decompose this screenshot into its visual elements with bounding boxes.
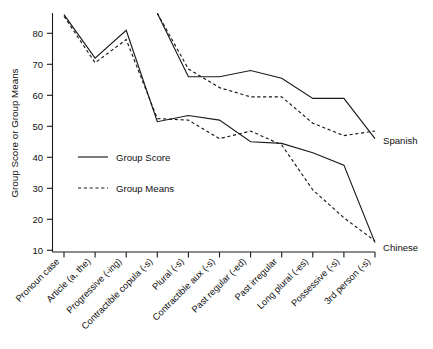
y-axis-title: Group Score or Group Means: [9, 68, 20, 197]
x-tick-label-progressive: Progressive (-ing): [65, 256, 124, 315]
x-tick-label-past-regular: Past regular (-ed): [190, 256, 248, 314]
y-tick-label: 80: [32, 28, 43, 39]
y-tick-labels: 80 70 60 50 40 30 20 10: [32, 28, 43, 256]
y-tick-label: 30: [32, 183, 43, 194]
y-tick-label: 20: [32, 214, 43, 225]
x-tick-labels: Pronoun case Article (a, the) Progressiv…: [14, 256, 373, 331]
y-tick-label: 50: [32, 121, 43, 132]
series-line-chinese-group-score: [64, 15, 375, 243]
y-tick-label: 60: [32, 90, 43, 101]
chart-legend: Group Score Group Means: [78, 152, 174, 194]
y-tick-marks: [47, 33, 53, 250]
spanish-group-label: Spanish: [383, 135, 418, 146]
y-tick-label: 10: [32, 245, 43, 256]
y-tick-label: 40: [32, 152, 43, 163]
series-line-chinese-group-means: [64, 16, 375, 241]
legend-label-group-score: Group Score: [116, 152, 170, 163]
y-tick-label: 70: [32, 59, 43, 70]
series-layer: [64, 13, 375, 242]
chart-container: 80 70 60 50 40 30 20 10 Group Score or G…: [0, 0, 433, 349]
legend-label-group-means: Group Means: [116, 183, 174, 194]
series-line-spanish-group-score: [157, 13, 375, 139]
chinese-group-label: Chinese: [383, 242, 418, 253]
line-chart-svg: 80 70 60 50 40 30 20 10 Group Score or G…: [0, 0, 433, 349]
x-tick-marks: [64, 252, 375, 258]
